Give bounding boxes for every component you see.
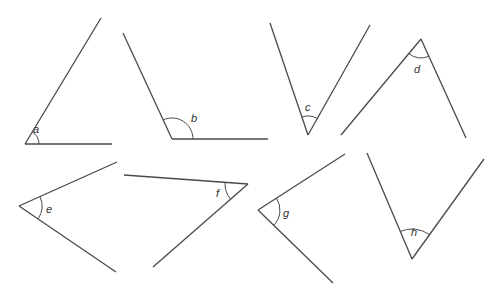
angle-diagram: abcdefgh <box>0 0 499 296</box>
angle-label-g: g <box>283 207 290 219</box>
angle-f-arm-1 <box>124 175 248 184</box>
angle-c-arm-1 <box>270 23 308 135</box>
angle-label-h: h <box>411 226 417 238</box>
angle-d-arc <box>409 54 429 58</box>
angle-d: d <box>341 39 466 138</box>
angle-h-arm-1 <box>367 153 412 259</box>
angle-c-arc <box>302 116 317 118</box>
angle-g-arm-2 <box>258 210 333 283</box>
angle-d-arm-2 <box>421 39 466 138</box>
angle-g-arm-1 <box>258 154 345 210</box>
angle-label-f: f <box>216 187 220 199</box>
angle-b-arm-1 <box>123 33 172 139</box>
angle-f-arc <box>225 182 231 199</box>
angle-b: b <box>123 33 268 139</box>
angle-label-e: e <box>46 203 52 215</box>
angle-figure: abcdefgh <box>0 0 499 296</box>
angle-label-b: b <box>191 112 197 124</box>
angle-h: h <box>367 153 484 259</box>
angle-e-arc <box>38 197 42 219</box>
angle-g: g <box>258 154 345 283</box>
angle-label-d: d <box>414 63 421 75</box>
angle-h-arm-2 <box>412 159 484 259</box>
angle-f: f <box>124 175 248 267</box>
angle-a: a <box>25 18 112 144</box>
angle-label-c: c <box>305 101 311 113</box>
angle-e-arm-1 <box>19 162 117 206</box>
angle-label-a: a <box>33 123 39 135</box>
angle-g-arc <box>274 198 280 225</box>
angle-e: e <box>19 162 117 272</box>
angle-f-arm-2 <box>153 184 248 267</box>
angle-e-arm-2 <box>19 206 116 272</box>
